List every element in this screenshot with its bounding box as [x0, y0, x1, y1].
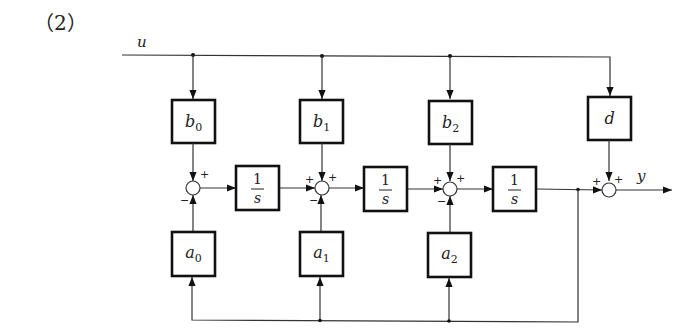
summing-junction-2	[443, 182, 457, 196]
svg-text:1: 1	[253, 171, 262, 187]
branch-dot	[318, 319, 322, 323]
output-signal-label: y	[636, 167, 646, 185]
sign-plus: +	[305, 173, 314, 186]
svg-text:s: s	[382, 191, 389, 207]
svg-text:1: 1	[510, 172, 519, 188]
integrator-block-2: 1 s	[493, 167, 536, 211]
sign-minus: −	[180, 194, 189, 207]
input-line	[122, 55, 610, 96]
branch-dot	[447, 319, 451, 323]
summing-junction-1	[315, 181, 329, 195]
svg-text:s: s	[511, 191, 518, 207]
sign-plus: +	[433, 174, 442, 187]
sign-minus: −	[309, 194, 318, 207]
problem-label: （2）	[34, 11, 87, 35]
block-b1: b1	[300, 100, 343, 143]
input-signal-label: u	[137, 33, 147, 51]
sign-plus: +	[614, 173, 623, 186]
block-a0: a0	[172, 232, 215, 276]
block-a2: a2	[428, 233, 471, 277]
integrator-block-0: 1 s	[236, 166, 279, 210]
wire-int2-to-sum3	[536, 189, 602, 190]
sign-plus: +	[456, 172, 465, 185]
sign-plus: +	[592, 175, 601, 188]
sign-plus: +	[200, 168, 209, 181]
svg-text:1: 1	[381, 172, 390, 188]
integrator-block-1: 1 s	[364, 167, 407, 211]
sign-plus: +	[328, 171, 337, 184]
block-diagram: （2） u b0 b1 b2 d + − + + − + + − + +	[0, 0, 698, 335]
svg-text:s: s	[254, 190, 261, 206]
svg-text:d: d	[604, 109, 614, 128]
block-b0: b0	[172, 100, 215, 143]
block-a1: a1	[300, 232, 343, 276]
sign-minus: −	[437, 195, 446, 208]
block-d: d	[588, 97, 631, 140]
summing-junction-0	[186, 181, 200, 195]
block-b2: b2	[429, 101, 472, 144]
